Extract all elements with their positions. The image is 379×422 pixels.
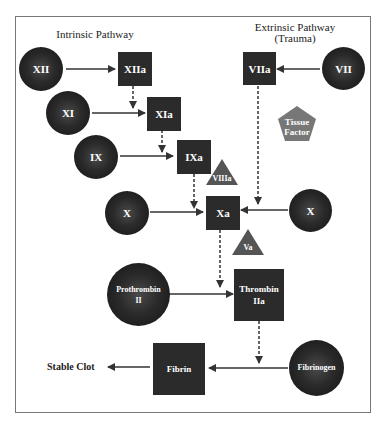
fibrinogen-node: Fibrinogen [289, 340, 344, 396]
factor-ixa-node: IXa [177, 140, 211, 174]
factor-ix-node: IX [74, 135, 118, 179]
prothrombin-node: Prothrombin II [107, 263, 170, 326]
fibrin-node: Fibrin [153, 343, 205, 395]
factor-vii-node: VII [322, 47, 365, 90]
factor-xia-node: XIa [147, 97, 181, 131]
tissue-factor-label: Tissue Factor [278, 117, 316, 137]
factor-xii-node: XII [19, 47, 63, 91]
factor-viia-node: VIIa [243, 52, 276, 85]
factor-va-label: Va [232, 243, 264, 252]
factor-xiia-node: XIIa [118, 52, 152, 86]
factor-xa-node: Xa [206, 196, 240, 230]
factor-viiia-label: VIIIa [206, 174, 238, 183]
factor-x-right-node: X [289, 189, 332, 232]
stable-clot-label: Stable Clot [47, 361, 107, 373]
factor-xi-node: XI [46, 91, 90, 135]
factor-x-left-node: X [105, 191, 149, 235]
thrombin-node: Thrombin IIa [234, 269, 284, 321]
